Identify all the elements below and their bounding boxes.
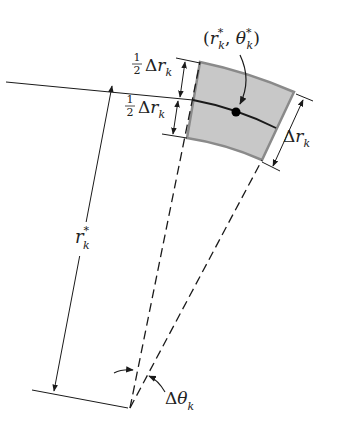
- svg-text:1: 1: [127, 93, 134, 106]
- half-dr-bottom-arrow: [173, 101, 178, 134]
- svg-text:Δrk: Δrk: [138, 97, 165, 121]
- ext-line-right-top: [296, 94, 313, 101]
- angle-pointer-right: [149, 376, 165, 392]
- r-star-label: r*k: [72, 222, 94, 256]
- angle-pointer-left: [114, 370, 133, 373]
- ext-line-bottom: [162, 134, 187, 138]
- ext-line-mid: [6, 82, 193, 100]
- svg-text:Δrk: Δrk: [145, 55, 172, 79]
- svg-text:2: 2: [127, 106, 134, 119]
- sample-point: [232, 108, 241, 117]
- radial-dashed-right: [130, 160, 262, 408]
- delta-theta-label: Δθk: [165, 388, 195, 413]
- baseline: [32, 390, 128, 408]
- point-label: (r*k, θ*k): [203, 26, 260, 52]
- half-dr-top-label: 1 2 Δrk: [132, 51, 172, 79]
- svg-text:2: 2: [134, 64, 141, 77]
- delta-r-label: Δrk: [283, 126, 310, 150]
- polar-element-diagram: (r*k, θ*k) 1 2 Δrk 1 2 Δrk Δrk r*k Δθk: [0, 0, 342, 426]
- polar-sector: [187, 62, 294, 160]
- svg-text:1: 1: [134, 51, 141, 64]
- ext-line-top: [176, 58, 200, 63]
- ext-line-right-bottom: [262, 162, 280, 171]
- half-dr-top-arrow: [180, 62, 185, 97]
